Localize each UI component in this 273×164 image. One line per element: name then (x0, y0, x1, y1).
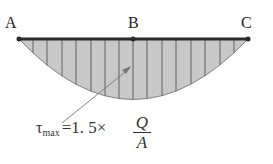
fraction: Q A (133, 114, 151, 151)
point-a-marker (17, 37, 22, 42)
point-c-marker (246, 37, 251, 42)
label-a: A (5, 15, 17, 31)
times-sign: × (97, 118, 107, 137)
label-b: B (128, 15, 139, 31)
denominator-a: A (133, 134, 151, 151)
numerator-q: Q (133, 114, 151, 131)
coefficient: 1. 5 (71, 118, 97, 137)
equals-sign: = (62, 118, 72, 137)
label-c: C (241, 15, 252, 31)
point-b-marker (131, 37, 136, 42)
max-subscript: max (42, 127, 59, 138)
max-shear-formula: τmax=1. 5× Q A (36, 118, 106, 138)
shear-distribution-area (19, 39, 248, 100)
